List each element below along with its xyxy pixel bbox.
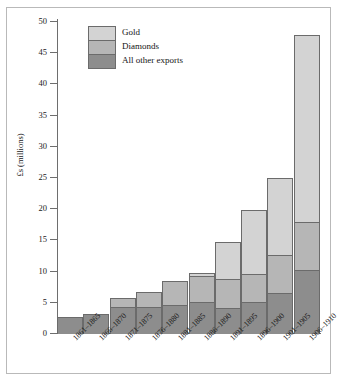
bar-segment-diam xyxy=(241,274,267,302)
chart-legend: GoldDiamondsAll other exports xyxy=(88,26,183,69)
y-axis-tick-label: 40 xyxy=(21,79,47,88)
bar-segment-gold xyxy=(267,178,293,256)
bar-segment-diam xyxy=(189,276,215,303)
bar-segment-diam xyxy=(215,279,241,310)
legend-label-gold: Gold xyxy=(122,25,183,39)
y-axis-tick-label: 45 xyxy=(21,48,47,57)
legend-label-other: All other exports xyxy=(122,53,183,67)
bar-segment-gold xyxy=(241,210,267,276)
bar-1901-1905 xyxy=(267,178,293,333)
x-axis-tick-labels: 1861–18651866–18701871–18751876–18801881… xyxy=(57,334,321,389)
bar-segment-diam xyxy=(294,222,320,271)
legend-labels: GoldDiamondsAll other exports xyxy=(122,25,183,67)
bar-segment-gold xyxy=(294,35,320,223)
legend-swatches xyxy=(88,26,116,69)
bar-segment-gold xyxy=(215,242,241,279)
bar-segment-diam xyxy=(136,292,162,308)
legend-swatch-diam xyxy=(89,40,115,54)
legend-swatch-other xyxy=(89,54,115,68)
y-axis-tick-label: 20 xyxy=(21,204,47,213)
y-axis-tick-label: 5 xyxy=(21,298,47,307)
bar-1906-1910 xyxy=(294,35,320,333)
y-axis-title: £s (millions) xyxy=(15,115,25,195)
y-axis-tick-label: 50 xyxy=(21,17,47,26)
legend-swatch-gold xyxy=(89,27,115,40)
bar-segment-diam xyxy=(267,255,293,294)
chart-figure: 05101520253035404550 £s (millions) 1861–… xyxy=(0,0,341,389)
bar-segment-diam xyxy=(162,281,188,305)
y-axis-tick-label: 10 xyxy=(21,266,47,275)
y-axis-tick-label: 15 xyxy=(21,235,47,244)
legend-label-diam: Diamonds xyxy=(122,39,183,53)
y-axis-tick-label: 0 xyxy=(21,329,47,338)
